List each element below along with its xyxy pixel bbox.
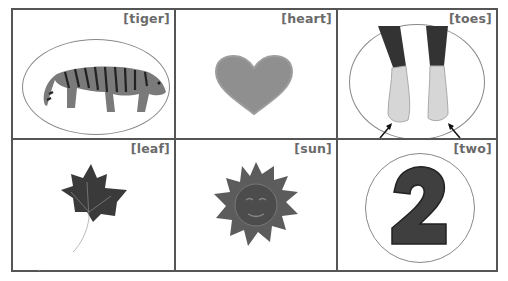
card-toes: [toes] [338,10,496,140]
card-two: [two] [338,140,496,270]
sun-icon [212,162,300,248]
picture-card-grid: [tiger] [heart] [toes] [11,8,498,272]
card-label: [tiger] [123,11,170,26]
card-label: [toes] [449,11,492,26]
arrow-icon [446,122,462,140]
card-heart: [heart] [176,10,338,140]
leaf-icon [57,162,137,254]
card-leaf: [leaf] [13,140,176,270]
card-label: [leaf] [131,141,170,156]
page-mark: ´ [37,270,41,279]
card-label: [two] [453,141,492,156]
feet-icon [374,26,456,126]
heart-icon [214,54,294,116]
card-sun: [sun] [176,140,338,270]
card-label: [heart] [281,11,332,26]
card-label: [sun] [294,141,332,156]
tiger-icon [35,50,171,118]
number-two-icon [390,166,450,248]
card-tiger: [tiger] [13,10,176,140]
arrow-icon [378,122,394,140]
